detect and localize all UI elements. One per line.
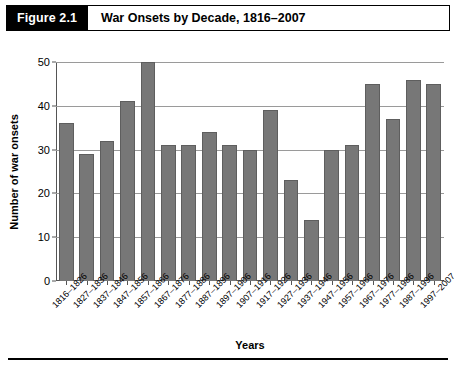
x-tick-label-slot: 1927–1936 — [281, 286, 301, 346]
x-tick-label-slot: 1837–1846 — [97, 286, 117, 346]
bar — [100, 141, 115, 281]
plot-area: 01020304050 — [56, 62, 444, 281]
x-axis-tick-labels: 1816–18261827–18361837–18461847–18561857… — [56, 286, 444, 346]
bar — [365, 84, 380, 281]
bar — [426, 84, 441, 281]
x-tick-label-slot: 1867–1876 — [158, 286, 178, 346]
bar — [406, 80, 421, 281]
x-tick-label-slot: 1977–1986 — [383, 286, 403, 346]
bar-slot — [362, 62, 382, 281]
bar — [161, 145, 176, 281]
bar — [59, 123, 74, 281]
x-tick-label-slot: 1967–1976 — [362, 286, 382, 346]
y-tick-label: 20 — [38, 187, 56, 199]
bar-slot — [158, 62, 178, 281]
bar — [181, 145, 196, 281]
bar-slot — [301, 62, 321, 281]
bar — [79, 154, 94, 281]
bar-slot — [260, 62, 280, 281]
bar-slot — [138, 62, 158, 281]
bar-slot — [281, 62, 301, 281]
x-tick-label-slot: 1827–1836 — [76, 286, 96, 346]
bar-slot — [179, 62, 199, 281]
bar-slot — [56, 62, 76, 281]
figure-bottom-rule — [8, 358, 448, 360]
bar — [243, 150, 258, 281]
figure-container: Figure 2.1 War Onsets by Decade, 1816–20… — [0, 0, 456, 369]
y-tick-label: 0 — [44, 275, 56, 287]
bar — [345, 145, 360, 281]
y-axis-title: Number of war onsets — [6, 62, 22, 281]
x-tick-label-slot: 1816–1826 — [56, 286, 76, 346]
bar-slot — [199, 62, 219, 281]
bar — [141, 62, 156, 281]
bar — [202, 132, 217, 281]
x-tick-label-slot: 1857–1866 — [138, 286, 158, 346]
y-tick-label: 40 — [38, 100, 56, 112]
x-axis-title: Years — [56, 339, 444, 351]
bar — [222, 145, 237, 281]
bar-slot — [76, 62, 96, 281]
bar-slot — [219, 62, 239, 281]
bar — [120, 101, 135, 281]
x-tick-label-slot: 1957–1966 — [342, 286, 362, 346]
y-tick-label: 50 — [38, 56, 56, 68]
x-tick-label-slot: 1907–1916 — [240, 286, 260, 346]
bar-slot — [424, 62, 444, 281]
bar-slot — [117, 62, 137, 281]
figure-number-label: Figure 2.1 — [7, 6, 88, 30]
x-tick-label-slot: 1887–1896 — [199, 286, 219, 346]
y-tick-label: 30 — [38, 144, 56, 156]
bar — [386, 119, 401, 281]
x-tick-label-slot: 1997–2007 — [424, 286, 444, 346]
x-tick-label-slot: 1897–1906 — [219, 286, 239, 346]
bar-series — [56, 62, 444, 281]
x-tick-label-slot: 1847–1856 — [117, 286, 137, 346]
figure-caption-bar: Figure 2.1 War Onsets by Decade, 1816–20… — [6, 5, 450, 31]
bar-slot — [403, 62, 423, 281]
bar-slot — [321, 62, 341, 281]
x-tick-label-slot: 1987–1996 — [403, 286, 423, 346]
y-axis-title-text: Number of war onsets — [8, 114, 20, 230]
bar — [284, 180, 299, 281]
y-tick-label: 10 — [38, 231, 56, 243]
chart-area: Number of war onsets 01020304050 1816–18… — [0, 36, 456, 352]
bar — [324, 150, 339, 281]
bar-slot — [342, 62, 362, 281]
bar — [263, 110, 278, 281]
bar-slot — [97, 62, 117, 281]
bar-slot — [240, 62, 260, 281]
x-tick-label-slot: 1937–1946 — [301, 286, 321, 346]
figure-title: War Onsets by Decade, 1816–2007 — [88, 6, 306, 30]
x-tick-label-slot: 1877–1886 — [179, 286, 199, 346]
bar-slot — [383, 62, 403, 281]
x-tick-label-slot: 1947–1956 — [321, 286, 341, 346]
x-tick-label-slot: 1917–1926 — [260, 286, 280, 346]
